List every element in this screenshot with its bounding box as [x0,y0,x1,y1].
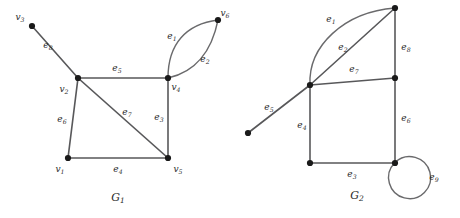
vertex-v2 [75,75,81,81]
vertex-v5 [165,155,171,161]
edge-label-e5: e5 [264,102,273,113]
vertex-g2-top-right [392,5,398,11]
vertex-g2-bottom-left [307,160,313,166]
vertex-g2-pendant [245,130,251,136]
edge-label-e6: e6 [57,114,66,125]
vertex-label-v6: v6 [220,8,229,19]
vertex-v4 [165,75,171,81]
caption-g2: G2 [350,189,364,203]
graph-g2: e1e2e3e4e5e6e7e8e9G2 [245,5,439,204]
edge-label-e2: e2 [338,42,347,53]
vertex-label-v3: v3 [15,12,24,23]
vertex-g2-mid-right [392,75,398,81]
caption-g1: G1 [111,191,125,205]
edge-e7 [310,78,395,85]
graph-g1: e1e2e3e4e5e6e7e8v3v2v4v6v1v5G1 [15,8,229,205]
vertex-v3 [29,23,35,29]
edge-label-e9: e9 [429,172,438,183]
vertex-label-v2: v2 [59,84,68,95]
vertex-g2-bottom-right [392,160,398,166]
edge-label-e3: e3 [154,112,163,123]
edge-e6 [68,78,78,158]
edge-label-e1: e1 [167,31,176,42]
edge-label-e8: e8 [43,40,52,51]
edge-label-e4: e4 [297,120,306,131]
vertex-label-v1: v1 [55,164,64,175]
edge-label-e7: e7 [122,107,131,118]
edge-label-e2: e2 [200,54,209,65]
graph-figure: e1e2e3e4e5e6e7e8v3v2v4v6v1v5G1e1e2e3e4e5… [0,0,460,218]
vertex-label-v5: v5 [173,164,182,175]
edge-label-e3: e3 [347,169,356,180]
edge-label-e7: e7 [349,64,358,75]
graph-canvas: e1e2e3e4e5e6e7e8v3v2v4v6v1v5G1e1e2e3e4e5… [0,0,460,218]
edge-label-e8: e8 [401,42,410,53]
vertex-v1 [65,155,71,161]
vertex-g2-junction [307,82,313,88]
edge-e1 [168,20,218,78]
vertex-label-v4: v4 [171,82,180,93]
edge-label-e6: e6 [401,113,410,124]
edge-label-e4: e4 [113,164,122,175]
edge-label-e5: e5 [112,63,121,74]
edge-e8 [32,26,78,78]
edge-label-e1: e1 [326,14,335,25]
